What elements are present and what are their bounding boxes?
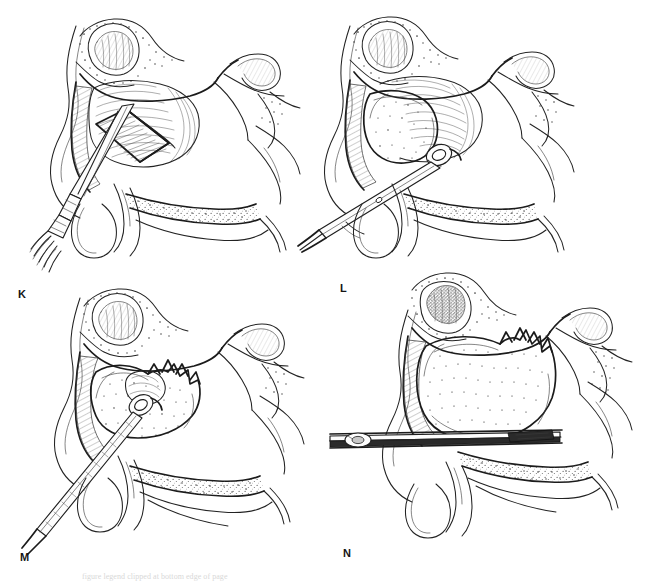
panel-m: M [28,286,338,566]
figure-illustration: K [0,0,646,581]
figure-caption: figure legend clipped at bottom edge of … [82,572,622,581]
panel-k: K [18,8,318,293]
panel-n-drawing [340,290,646,568]
panel-l-drawing [300,8,630,293]
panel-m-drawing [28,286,338,566]
panel-l: L [300,8,630,293]
figure-caption-text: figure legend clipped at bottom edge of … [82,572,622,581]
panel-m-label: M [20,552,29,563]
panel-n-label: N [343,548,351,559]
panel-k-label: K [18,289,26,300]
panel-n: N [340,290,646,568]
panel-k-drawing [18,8,318,293]
